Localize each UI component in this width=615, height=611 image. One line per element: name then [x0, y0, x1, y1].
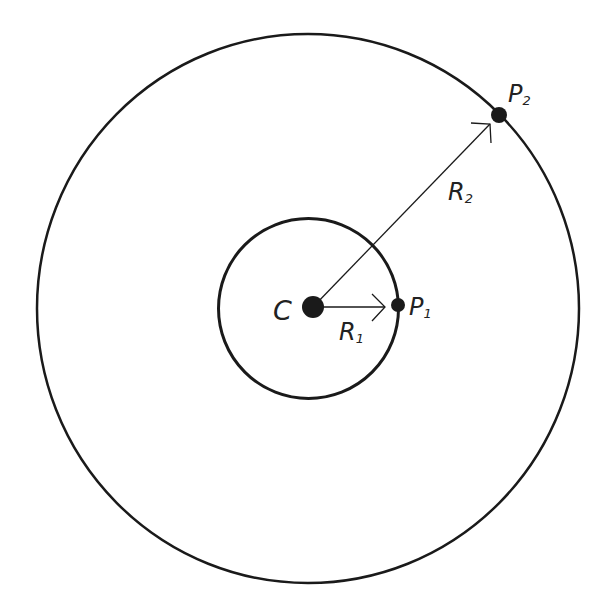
label-p2: P2: [508, 80, 531, 108]
label-r2: R2: [448, 178, 473, 206]
diagram-canvas: C P1 P2 R1 R2: [0, 0, 615, 611]
label-r1: R1: [339, 318, 364, 346]
label-c: C: [273, 295, 292, 326]
concentric-circles-diagram: C P1 P2 R1 R2: [0, 0, 615, 611]
radius-r2-arrow: [313, 123, 491, 307]
label-p1: P1: [409, 293, 432, 321]
point-p1: [391, 298, 405, 312]
center-point-c: [302, 296, 324, 318]
point-p2: [491, 107, 507, 123]
